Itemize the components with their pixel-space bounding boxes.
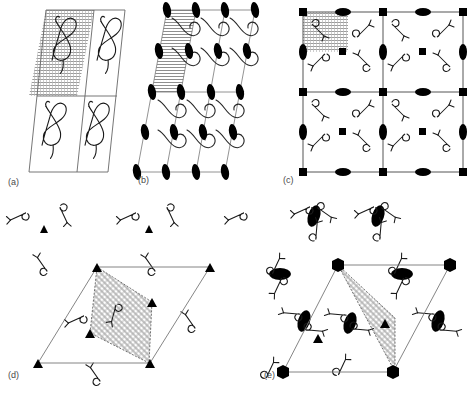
symmetry-figure: (a): [0, 0, 468, 394]
panel-d-label: (d): [8, 370, 19, 380]
panel-b-label: (b): [138, 175, 149, 185]
panel-c-label: (c): [283, 175, 294, 185]
figure-canvas: (a): [0, 0, 468, 394]
panel-a-label: (a): [8, 177, 19, 187]
panel-e-label: (e): [264, 370, 275, 380]
panel-c-shaded-cell: [303, 12, 348, 52]
